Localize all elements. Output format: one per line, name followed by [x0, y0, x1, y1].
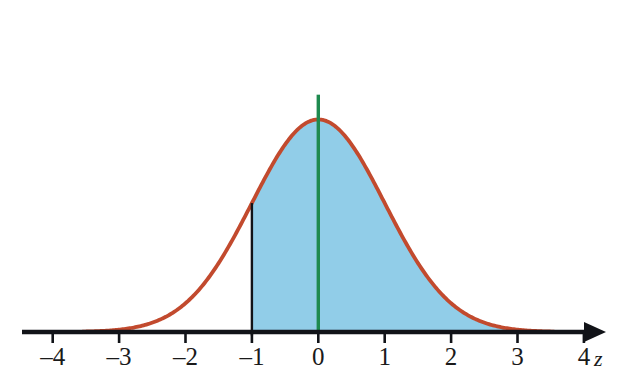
tick-label-minus-4: –4 — [30, 344, 76, 369]
normal-distribution-figure: –4 –3 –2 –1 0 1 2 3 4 z — [0, 0, 635, 387]
tick-label-0: 0 — [295, 344, 341, 369]
tick-label-minus-2: –2 — [163, 344, 209, 369]
tick-label-minus-3: –3 — [96, 344, 142, 369]
shaded-area-region — [252, 119, 554, 332]
tick-label-minus-1: –1 — [229, 344, 275, 369]
axis-variable-label: z — [594, 348, 603, 370]
normal-curve-plot — [0, 0, 635, 387]
tick-label-1: 1 — [362, 344, 408, 369]
tick-label-2: 2 — [428, 344, 474, 369]
tick-label-3: 3 — [495, 344, 541, 369]
axis-arrow-icon — [584, 322, 606, 342]
